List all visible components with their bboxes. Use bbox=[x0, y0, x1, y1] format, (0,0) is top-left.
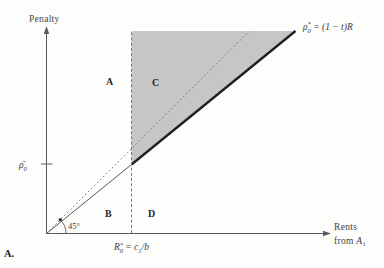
diagram-canvas: Penalty Rents from A1 ρ̄0 R*0 = c1/b ρ*0… bbox=[0, 0, 384, 268]
angle-dot bbox=[59, 218, 62, 221]
x-axis-title-line2: from A1 bbox=[334, 236, 366, 247]
x-axis-title-variable-subscript: 1 bbox=[362, 240, 366, 247]
penalty-schedule-thin-segment bbox=[47, 165, 132, 234]
rho-bar-subscript: 0 bbox=[24, 165, 28, 172]
angle-label: 45° bbox=[68, 221, 80, 231]
x-axis-title-variable: A bbox=[355, 236, 362, 246]
panel-label: A. bbox=[4, 248, 15, 259]
x-threshold-label: R*0 = c1/b bbox=[113, 241, 149, 255]
line-eq-expression: = (1 − t)R bbox=[311, 22, 353, 33]
y-axis-title: Penalty bbox=[29, 14, 60, 24]
region-label-a: A bbox=[106, 76, 114, 87]
x-axis-arrow-icon bbox=[323, 231, 331, 236]
x-axis-title-line2-pre: from bbox=[334, 236, 356, 246]
line-equation-label: ρ*0 = (1 − t)R bbox=[302, 20, 353, 34]
y-intercept-label: ρ̄0 bbox=[18, 160, 28, 172]
threshold-equation: = c bbox=[123, 242, 139, 252]
y-axis-arrow-icon bbox=[44, 26, 49, 34]
threshold-equation-end: /b bbox=[141, 242, 150, 252]
region-label-d: D bbox=[148, 208, 155, 219]
region-label-b: B bbox=[105, 208, 112, 219]
x-axis-title-line1: Rents bbox=[334, 222, 357, 232]
region-label-c: C bbox=[152, 77, 159, 88]
